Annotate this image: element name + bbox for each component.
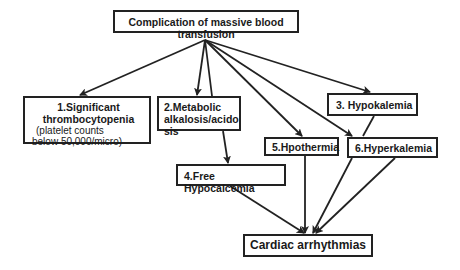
node-thrombocytopenia-title-1: 1.Significant	[32, 101, 145, 113]
title-node: Complication of massive blood transfusio…	[113, 10, 299, 33]
node-hyperkalemia: 6.Hyperkalemia	[347, 137, 438, 158]
node-metabolic: 2.Metabolic alkalosis/acido sis	[157, 96, 241, 131]
edge-title-to-n2	[197, 40, 205, 95]
edge-title-to-n1	[80, 40, 205, 95]
edge-n6-to-outcome-a	[313, 158, 352, 233]
node-thrombocytopenia-title-2: thrombocytopenia	[32, 113, 145, 125]
node-hypocalcemia-label: 4.Free Hypocalcemia	[184, 170, 255, 194]
node-thrombocytopenia-sub-1: (platelet counts	[32, 125, 145, 136]
edge-n6-to-outcome-b	[316, 158, 395, 233]
edge-n3-to-n6	[363, 116, 374, 136]
node-hypocalcemia: 4.Free Hypocalcemia	[176, 164, 286, 186]
edge-title-to-n2-right	[205, 40, 212, 96]
node-metabolic-line-3: sis	[164, 125, 239, 137]
node-metabolic-line-2: alkalosis/acido	[164, 113, 239, 125]
edge-title-to-n3	[205, 40, 370, 92]
node-hypothermia-label: 5.Hpothermia	[272, 141, 339, 153]
node-thrombocytopenia-sub-2: below 50,000/micro)	[32, 136, 145, 147]
node-hypokalemia-label: 3. Hypokalemia	[336, 99, 412, 111]
outcome-node: Cardiac arrhythmias	[243, 234, 373, 257]
node-thrombocytopenia: 1.Significant thrombocytopenia (platelet…	[23, 96, 151, 144]
node-metabolic-line-1: 2.Metabolic	[164, 101, 239, 113]
node-hyperkalemia-label: 6.Hyperkalemia	[355, 142, 432, 154]
outcome-node-label: Cardiac arrhythmias	[250, 238, 366, 252]
node-hypothermia: 5.Hpothermia	[264, 137, 339, 156]
node-hypokalemia: 3. Hypokalemia	[327, 93, 418, 116]
